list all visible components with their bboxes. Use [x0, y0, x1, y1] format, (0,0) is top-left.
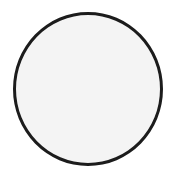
circle-shape	[13, 12, 163, 166]
canvas	[0, 0, 181, 177]
